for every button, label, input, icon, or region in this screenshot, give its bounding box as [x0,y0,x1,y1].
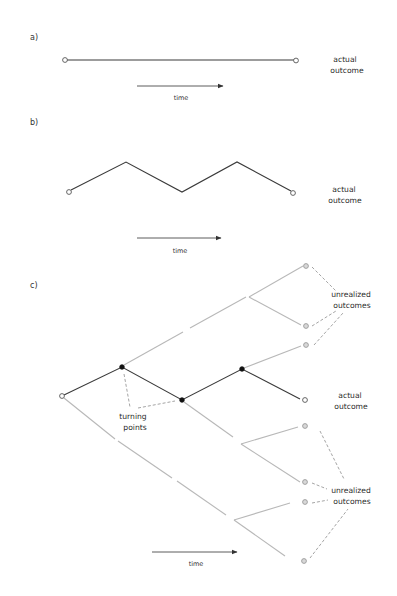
turning-point-icon [240,367,245,372]
start-node-icon [60,394,65,399]
panel-b-label: b) [30,118,38,127]
panel-a-outcome-label-line2: outcome [330,66,364,75]
unrealized-node-icon [303,480,308,485]
turning-point-icon [180,398,185,403]
end-node-icon [291,191,296,196]
start-node-icon [63,58,68,63]
unrealized-top-label-line2: outcomes [333,301,370,310]
panel-c-label: c) [30,281,38,290]
panel-a-time-label: time [174,94,189,102]
panel-b-zigzag-path [71,162,291,192]
actual-path [64,367,300,400]
turning-points-label-line2: points [123,423,146,432]
panel-c: c) [30,264,371,568]
start-node-icon [67,190,72,195]
unrealized-node-icon [304,343,309,348]
dashed-leaders [124,267,348,558]
turning-points-label-line1: turning [119,412,147,421]
panel-a: a) actual outcome time [30,33,364,102]
panel-b: b) actual outcome time [30,118,362,255]
turning-point-icon [120,365,125,370]
unrealized-bottom-label-line1: unrealized [331,486,371,495]
panel-a-label: a) [30,33,38,42]
unrealized-node-icon [304,264,309,269]
unrealized-node-icon [303,500,308,505]
unrealized-node-icon [302,559,307,564]
panel-a-outcome-label-line1: actual [333,55,356,64]
unrealized-node-icon [303,424,308,429]
actual-outcome-node-icon [303,398,308,403]
panel-b-outcome-label-line2: outcome [328,196,362,205]
unrealized-branches [64,266,303,556]
unrealized-bottom-label-line2: outcomes [333,497,370,506]
actual-outcome-label-line1: actual [338,391,361,400]
panel-c-time-label: time [189,560,204,568]
branching-paths-diagram: a) actual outcome time b) actual outcome… [0,0,397,596]
panel-b-outcome-label-line1: actual [332,185,355,194]
unrealized-top-label-line1: unrealized [331,290,371,299]
panel-b-time-label: time [173,247,188,255]
actual-outcome-label-line2: outcome [334,402,368,411]
end-node-icon [294,58,299,63]
unrealized-node-icon [304,324,309,329]
